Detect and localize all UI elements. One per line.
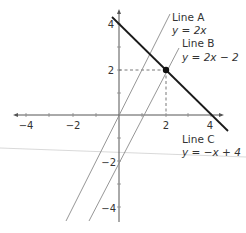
coordinate-plane: −4 −2 2 4 4 2 −2 −4 Line A y = 2x Line B… — [0, 0, 246, 233]
line-c — [112, 17, 228, 131]
x-axis-left-arrow-icon — [13, 113, 18, 117]
line-c-equation: y = −x + 4 — [181, 146, 241, 158]
x-tick-label: 2 — [163, 120, 169, 131]
dashed-guides — [119, 70, 166, 113]
line-a-label: Line A y = 2x — [171, 11, 207, 36]
line-a — [66, 14, 170, 221]
line-b-name: Line B — [182, 37, 214, 49]
intersection-point — [163, 67, 169, 73]
line-b-label: Line B y = 2x − 2 — [181, 37, 239, 63]
y-tick-labels: 4 2 −2 −4 — [101, 19, 116, 214]
line-b — [89, 48, 179, 221]
y-tick-label: 4 — [108, 19, 114, 30]
line-a-name: Line A — [172, 11, 205, 23]
x-tick-label: 4 — [207, 120, 213, 131]
y-axis-up-arrow-icon — [117, 9, 121, 14]
x-tick-label: −4 — [19, 120, 34, 131]
line-c-label: Line C y = −x + 4 — [181, 133, 241, 158]
y-tick-label: −4 — [101, 203, 116, 214]
x-axis-right-arrow-icon — [219, 113, 224, 117]
y-tick-label: −2 — [101, 157, 116, 168]
line-c-name: Line C — [182, 133, 215, 145]
line-a-equation: y = 2x — [171, 24, 207, 36]
line-b-equation: y = 2x − 2 — [181, 51, 239, 63]
y-tick-label: 2 — [108, 65, 114, 76]
x-tick-label: −2 — [66, 120, 81, 131]
